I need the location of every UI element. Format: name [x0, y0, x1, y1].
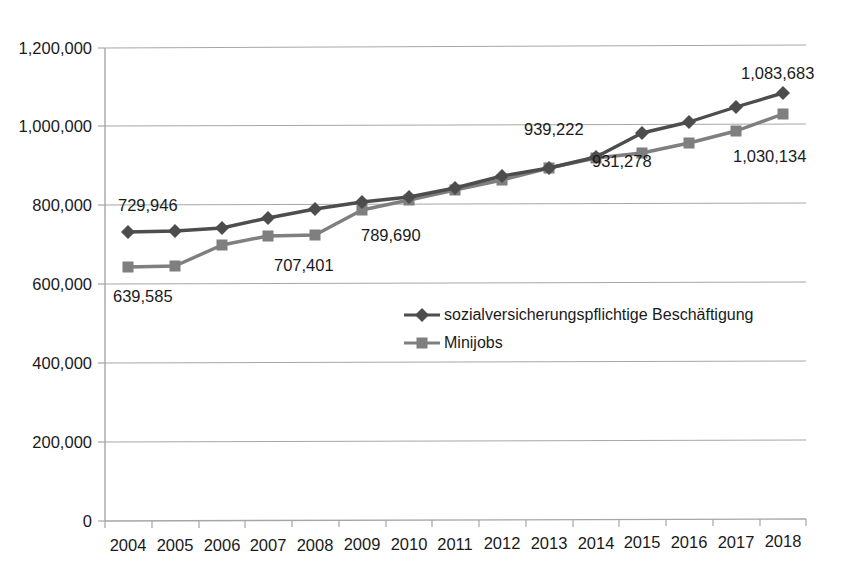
- diamond-marker: [415, 308, 429, 322]
- diamond-marker: [168, 224, 182, 238]
- series-sozialversicherungspflichtige-beschaeftigung: [121, 86, 790, 239]
- gridline-800000: [105, 203, 806, 205]
- chart-canvas: 1,200,000 1,000,000 800,000 600,000 400,…: [0, 0, 843, 584]
- legend-label-beschaeftigung: sozialversicherungspflichtige Beschäftig…: [444, 306, 754, 323]
- gridline-600000: [105, 282, 806, 284]
- y-tick-label: 400,000: [32, 354, 92, 372]
- x-tick-label: 2004: [110, 536, 147, 554]
- legend-item-minijobs[interactable]: Minijobs: [404, 334, 503, 351]
- y-tick-label: 600,000: [32, 275, 92, 293]
- data-label-729946: 729,946: [118, 196, 178, 214]
- data-label-639585: 639,585: [113, 287, 173, 305]
- x-tick-label: 2010: [391, 535, 428, 553]
- y-axis-tick-labels: 1,200,000 1,000,000 800,000 600,000 400,…: [19, 39, 92, 530]
- x-tick-label: 2005: [157, 536, 194, 554]
- square-marker: [778, 109, 789, 120]
- x-tick-label: 2017: [718, 533, 755, 551]
- gridline-200000: [105, 440, 806, 442]
- square-marker: [263, 231, 274, 242]
- square-marker: [170, 261, 181, 272]
- x-tick-label: 2013: [531, 534, 568, 552]
- x-tick-label: 2008: [297, 536, 334, 554]
- square-marker: [217, 240, 228, 251]
- x-tick-label: 2007: [250, 536, 287, 554]
- square-marker: [123, 262, 134, 273]
- y-tick-label: 200,000: [32, 433, 92, 451]
- gridline-1000000: [105, 124, 806, 126]
- diamond-marker: [215, 221, 229, 235]
- sozialversicherungspflichtige-beschaeftigung-line: [128, 93, 783, 232]
- y-tick-label: 800,000: [32, 196, 92, 214]
- diamond-marker: [121, 225, 135, 239]
- legend-item-beschaeftigung[interactable]: sozialversicherungspflichtige Beschäftig…: [404, 306, 754, 323]
- y-tick-label: 0: [83, 512, 92, 530]
- x-tick-label: 2006: [204, 536, 241, 554]
- gridline-400000: [105, 361, 806, 363]
- diamond-marker: [635, 126, 649, 140]
- x-tick-label: 2011: [437, 535, 472, 553]
- square-marker: [731, 126, 742, 137]
- x-tick-label: 2018: [765, 532, 802, 550]
- square-marker: [684, 138, 695, 149]
- square-marker: [417, 338, 428, 349]
- data-label-789690: 789,690: [361, 226, 421, 244]
- diamond-marker: [682, 115, 696, 129]
- x-axis-tick-labels: 2004 2005 2006 2007 2008 2009 2010 2011 …: [110, 532, 802, 554]
- gridlines: [105, 45, 806, 442]
- data-label-931278: 931,278: [592, 152, 652, 170]
- y-tick-label: 1,000,000: [19, 117, 92, 135]
- data-label-1030134: 1,030,134: [733, 147, 806, 165]
- beschaeftigung-markers: [121, 86, 790, 239]
- data-label-939222: 939,222: [524, 120, 584, 138]
- x-tick-label: 2009: [344, 535, 381, 553]
- y-tick-label: 1,200,000: [19, 39, 92, 57]
- diamond-marker: [261, 211, 275, 225]
- square-marker: [310, 230, 321, 241]
- data-label-1083683: 1,083,683: [741, 64, 814, 82]
- data-label-707401: 707,401: [274, 256, 334, 274]
- x-tick-label: 2016: [671, 533, 708, 551]
- legend-label-minijobs: Minijobs: [444, 334, 503, 351]
- x-axis: [105, 519, 806, 521]
- diamond-marker: [729, 100, 743, 114]
- x-tick-label: 2012: [484, 534, 521, 552]
- diamond-marker: [776, 86, 790, 100]
- line-chart: 1,200,000 1,000,000 800,000 600,000 400,…: [0, 0, 843, 584]
- gridline-1200000: [105, 45, 806, 48]
- chart-legend: sozialversicherungspflichtige Beschäftig…: [404, 306, 754, 351]
- x-tick-label: 2015: [624, 533, 661, 551]
- x-tick-label: 2014: [578, 534, 615, 552]
